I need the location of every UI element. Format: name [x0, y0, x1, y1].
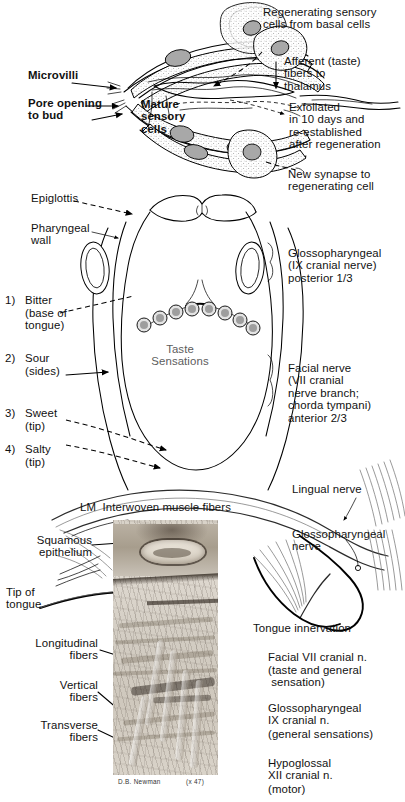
label-afferent-fibers: Afferent (taste) fibers to thalamus — [284, 55, 361, 92]
taste-region-4-name: Salty — [25, 443, 51, 455]
label-lingual-nerve: Lingual nerve — [292, 483, 362, 495]
label-longitudinal-fibers: Longitudinal fibers — [14, 637, 98, 662]
label-new-synapse: New synapse to regenerating cell — [288, 168, 374, 193]
nerve-2-function: (general sensations) — [268, 728, 373, 740]
label-tip-of-tongue: Tip of tongue — [6, 586, 41, 611]
taste-region-2-number: 2) — [5, 352, 15, 364]
micrograph-magnification: (x 47) — [186, 778, 204, 785]
label-exfoliated: Exfoliated in 10 days and re-established… — [289, 101, 381, 151]
taste-region-3-location: (tip) — [25, 420, 45, 432]
label-glossopharyngeal-nerve: Glossopharyngeal nerve — [292, 528, 385, 553]
taste-region-3-name: Sweet — [25, 407, 57, 419]
taste-region-4-location: (tip) — [25, 456, 45, 468]
circumvallate-papillae — [137, 302, 260, 335]
label-regenerating-sensory-cells: Regenerating sensory cells from basal ce… — [263, 6, 376, 31]
nerve-2-name: Glossopharyngeal IX cranial n. — [268, 702, 361, 727]
label-vertical-fibers: Vertical fibers — [26, 679, 98, 704]
figure-page: Regenerating sensory cells from basal ce… — [0, 0, 405, 802]
taste-region-3-number: 3) — [5, 407, 15, 419]
taste-region-4-number: 4) — [5, 443, 15, 455]
innervation-title: Tongue innervation — [253, 622, 351, 634]
label-squamous-epithelium: Squamous epithelium — [20, 534, 92, 559]
label-microvilli: Microvilli — [28, 69, 78, 81]
nerve-3-name: Hypoglossal XII cranial n. — [268, 757, 333, 782]
label-mature-sensory-cells: Mature sensory cells — [141, 98, 185, 135]
label-transverse-fibers: Transverse fibers — [14, 719, 98, 744]
nerve-1-function: (taste and general sensation) — [268, 664, 362, 689]
label-pharyngeal-wall: Pharyngeal wall — [31, 222, 90, 247]
taste-region-2-name: Sour — [25, 352, 49, 364]
nerve-1-name: Facial VII cranial n. — [268, 651, 367, 663]
taste-region-1-number: 1) — [5, 294, 15, 306]
label-taste-sensations: Taste Sensations — [149, 343, 211, 368]
micrograph-credit: D.B. Newman — [118, 778, 161, 785]
label-epiglottis: Epiglottis — [31, 192, 78, 204]
taste-region-1-name: Bitter — [25, 294, 52, 306]
label-facial-anterior: Facial nerve (VII cranial nerve branch; … — [288, 362, 371, 424]
taste-region-2-location: (sides) — [25, 365, 60, 377]
taste-region-1-location: (base of tongue) — [25, 307, 67, 332]
micrograph-header: LM Interwoven muscle fibers — [80, 501, 231, 513]
label-pore-opening: Pore opening to bud — [28, 97, 102, 122]
light-micrograph-image — [113, 520, 218, 775]
label-glossopharyngeal-posterior: Glossopharyngeal (IX cranial nerve) post… — [288, 247, 381, 284]
nerve-3-function: (motor) — [268, 783, 305, 795]
